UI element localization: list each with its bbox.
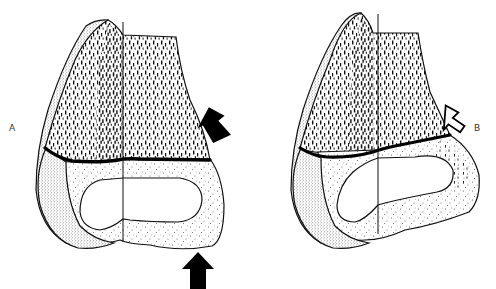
bone-diagram-canvas: [0, 0, 496, 289]
panel-b-bone: [291, 13, 479, 249]
panel-a-label: A: [9, 123, 15, 133]
arrow-up-solid-icon: [182, 252, 214, 289]
arrow-down-outline-icon: [442, 104, 465, 134]
panel-b-shaft: [300, 13, 450, 153]
panel-b-label: B: [474, 123, 480, 133]
panel-a-shaft: [45, 20, 210, 166]
panel-a-bone: [36, 20, 224, 249]
